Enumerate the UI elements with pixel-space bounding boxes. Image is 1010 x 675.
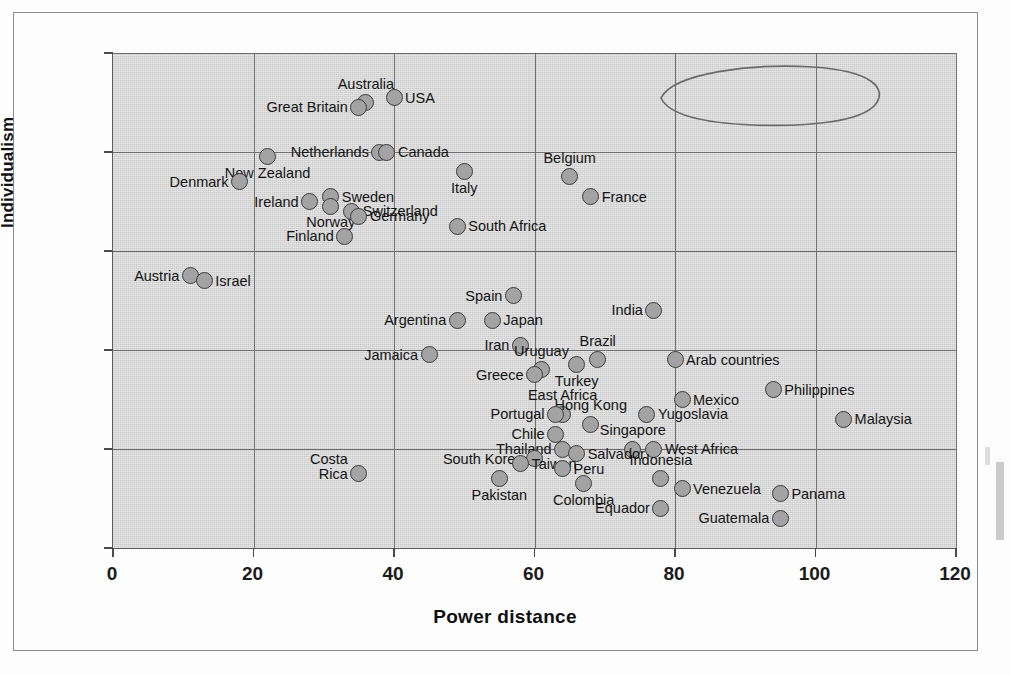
data-point[interactable] bbox=[231, 173, 248, 190]
data-point[interactable] bbox=[674, 480, 691, 497]
data-point-label: Pakistan bbox=[472, 488, 528, 503]
data-point[interactable] bbox=[386, 89, 403, 106]
scatter-plot-figure: Individualism Power distance AustraliaGr… bbox=[0, 0, 1010, 675]
gridline-vertical bbox=[254, 53, 255, 548]
data-point-label: Iran bbox=[484, 338, 509, 353]
data-point[interactable] bbox=[568, 356, 585, 373]
data-point-label: Turkey bbox=[555, 374, 599, 389]
data-point[interactable] bbox=[505, 287, 522, 304]
y-axis-tick bbox=[104, 349, 113, 350]
data-point[interactable] bbox=[575, 475, 592, 492]
data-point-label: CostaRica bbox=[310, 452, 348, 482]
data-point-label: Yugoslavia bbox=[658, 407, 728, 422]
data-point[interactable] bbox=[512, 455, 529, 472]
data-point-label: Great Britain bbox=[266, 100, 347, 115]
data-point[interactable] bbox=[259, 148, 276, 165]
data-point-label: Brazil bbox=[580, 334, 616, 349]
y-axis-title: Individualism bbox=[0, 117, 18, 228]
data-point[interactable] bbox=[582, 188, 599, 205]
data-point-label: Chile bbox=[512, 427, 545, 442]
plot-area: AustraliaGreat BritainUSANetherlandsCana… bbox=[112, 53, 956, 549]
data-point[interactable] bbox=[547, 406, 564, 423]
data-point-label: Australia bbox=[338, 77, 394, 92]
data-point[interactable] bbox=[582, 416, 599, 433]
data-point[interactable] bbox=[638, 406, 655, 423]
x-axis-title: Power distance bbox=[0, 606, 1010, 628]
data-point-label: South Africa bbox=[468, 219, 546, 234]
data-point[interactable] bbox=[378, 144, 395, 161]
data-point[interactable] bbox=[561, 168, 578, 185]
x-axis-tick-label: 120 bbox=[925, 563, 985, 585]
data-point[interactable] bbox=[456, 163, 473, 180]
data-point-label: Ireland bbox=[254, 194, 298, 209]
data-point[interactable] bbox=[350, 99, 367, 116]
data-point-label: USA bbox=[405, 90, 435, 105]
data-point-label: Belgium bbox=[543, 151, 595, 166]
data-point-label: France bbox=[602, 189, 647, 204]
data-point[interactable] bbox=[449, 312, 466, 329]
data-point-label: Indonesia bbox=[629, 453, 692, 468]
data-point[interactable] bbox=[772, 485, 789, 502]
data-point-label: Panama bbox=[791, 486, 845, 501]
data-point-label: Portugal bbox=[491, 407, 545, 422]
data-point-label: Equador bbox=[595, 501, 650, 516]
data-point[interactable] bbox=[645, 302, 662, 319]
scan-artifact bbox=[985, 447, 990, 465]
data-point-label: Austria bbox=[134, 268, 179, 283]
data-point[interactable] bbox=[772, 510, 789, 527]
data-point[interactable] bbox=[301, 193, 318, 210]
x-axis-tick bbox=[815, 548, 816, 557]
data-point[interactable] bbox=[652, 470, 669, 487]
x-axis-tick bbox=[253, 548, 254, 557]
y-axis-tick bbox=[104, 448, 113, 449]
x-axis-tick-label: 40 bbox=[363, 563, 423, 585]
y-axis-tick bbox=[104, 151, 113, 152]
data-point-label: Israel bbox=[215, 273, 250, 288]
data-point[interactable] bbox=[421, 346, 438, 363]
data-point-label: Guatemala bbox=[698, 511, 769, 526]
data-point-label: Japan bbox=[503, 313, 543, 328]
data-point[interactable] bbox=[554, 460, 571, 477]
data-point-label: Venezuela bbox=[693, 481, 761, 496]
data-point[interactable] bbox=[350, 208, 367, 225]
data-point-label: Malaysia bbox=[855, 412, 912, 427]
gridline-vertical bbox=[535, 53, 536, 548]
x-axis-tick-label: 100 bbox=[785, 563, 845, 585]
data-point[interactable] bbox=[484, 312, 501, 329]
data-point[interactable] bbox=[449, 218, 466, 235]
x-axis-tick bbox=[393, 548, 394, 557]
data-point-label: Mexico bbox=[693, 392, 739, 407]
data-point-label: Denmark bbox=[170, 174, 229, 189]
data-point[interactable] bbox=[491, 470, 508, 487]
x-axis-tick bbox=[534, 548, 535, 557]
data-point[interactable] bbox=[322, 198, 339, 215]
data-point-label: Italy bbox=[451, 181, 478, 196]
x-axis-tick bbox=[955, 548, 956, 557]
gridline-vertical bbox=[394, 53, 395, 548]
data-point[interactable] bbox=[350, 465, 367, 482]
data-point-label: Canada bbox=[398, 145, 449, 160]
data-point[interactable] bbox=[667, 351, 684, 368]
data-point-label: Finland bbox=[286, 229, 334, 244]
data-point-label: Argentina bbox=[384, 313, 446, 328]
data-point-label: Netherlands bbox=[291, 145, 369, 160]
data-point[interactable] bbox=[196, 272, 213, 289]
data-point-label: Arab countries bbox=[686, 353, 780, 368]
y-axis-tick bbox=[104, 52, 113, 53]
data-point[interactable] bbox=[336, 228, 353, 245]
data-point[interactable] bbox=[526, 366, 543, 383]
data-point-label: Sweden bbox=[342, 189, 394, 204]
data-point[interactable] bbox=[835, 411, 852, 428]
x-axis-tick-label: 80 bbox=[644, 563, 704, 585]
data-point[interactable] bbox=[589, 351, 606, 368]
data-point[interactable] bbox=[652, 500, 669, 517]
data-point-label: Hong Kong bbox=[554, 398, 627, 413]
data-point-label: Peru bbox=[574, 461, 605, 476]
data-point[interactable] bbox=[765, 381, 782, 398]
data-point-label: Greece bbox=[476, 367, 524, 382]
gridline-vertical bbox=[816, 53, 817, 548]
data-point-label: India bbox=[611, 303, 642, 318]
scan-artifact bbox=[996, 462, 1004, 540]
data-point-label: Jamaica bbox=[364, 348, 418, 363]
data-point-label: Uruguay bbox=[514, 344, 569, 359]
